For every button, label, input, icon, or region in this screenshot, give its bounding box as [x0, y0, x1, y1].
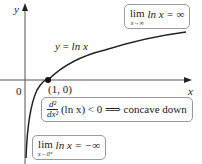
limit-zero-expr: ln x = −∞ — [56, 139, 100, 151]
lim-word: lim — [130, 7, 145, 19]
curve-label: y = ln x — [55, 41, 88, 52]
second-derivative-box: d² dx² (ln x) < 0 ⟹ concave down — [41, 97, 193, 122]
limit-zero-lim: lim x→0⁺ — [38, 139, 53, 157]
limit-infinity-box: lim x→∞ ln x = ∞ — [124, 4, 190, 29]
x-axis-label: x — [188, 86, 193, 97]
curve-label-lhs: y — [55, 40, 60, 52]
fraction-denominator: dx² — [47, 110, 58, 119]
x-axis-arrow-icon — [184, 77, 192, 83]
y-axis-label: y — [14, 4, 19, 15]
lim-subscript: x→∞ — [130, 20, 145, 26]
limit-zero-box: lim x→0⁺ ln x = −∞ — [32, 135, 106, 160]
limit-infinity-lim: lim x→∞ — [130, 8, 145, 26]
origin-label: 0 — [16, 86, 22, 97]
second-derivative-fraction: d² dx² — [47, 100, 58, 119]
y-axis-arrow-icon — [22, 3, 28, 11]
lim-subscript: x→0⁺ — [38, 151, 53, 157]
second-derivative-expr: (ln x) < 0 ⟹ concave down — [61, 103, 187, 115]
curve-label-rhs: ln x — [72, 40, 88, 52]
limit-infinity-expr: ln x = ∞ — [147, 8, 184, 20]
lim-word: lim — [38, 138, 53, 150]
curve-label-eq: = — [63, 40, 69, 52]
point-label: (1, 0) — [48, 84, 72, 95]
